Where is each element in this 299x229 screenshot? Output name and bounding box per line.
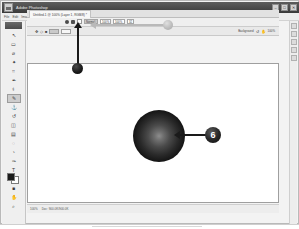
step-number-badge: 6 <box>205 127 221 143</box>
callout-arrow-gray-left <box>96 24 168 26</box>
callout-arrow-up-bead <box>72 63 83 74</box>
tool-gradient[interactable]: ▤ <box>7 130 21 139</box>
panel-adjustments-button[interactable] <box>291 31 297 37</box>
hand-tool-icon[interactable]: ✋ <box>261 29 266 34</box>
flow-value: 100% <box>115 20 122 24</box>
document-tab[interactable]: Untitled-1 @ 100% (Layer 1, RGB/8) * <box>29 10 91 18</box>
maximize-glyph: □ <box>282 5 287 10</box>
shape-icon[interactable]: ◇ <box>40 29 43 34</box>
close-button[interactable]: ✕ <box>290 4 297 11</box>
page-bottom-edge <box>0 224 299 229</box>
tool-blur[interactable]: ◌ <box>7 139 21 148</box>
move-tool-icon[interactable]: ✥ <box>35 29 38 34</box>
menu-item-edit[interactable]: Edit <box>12 15 18 19</box>
document-tab-label: Untitled-1 @ 100% (Layer 1, RGB/8) * <box>33 13 87 17</box>
document-tab-strip: Untitled-1 @ 100% (Layer 1, RGB/8) * <box>27 10 279 18</box>
panel-swatches-button[interactable] <box>291 55 297 61</box>
secondary-options-row: ✥ ◇ ■ Background ↺ ✋ 100% <box>27 27 279 36</box>
tool-healing-brush[interactable]: ⚕ <box>7 85 21 94</box>
tool-eraser[interactable]: ◫ <box>7 121 21 130</box>
tool-pen[interactable]: ✑ <box>7 157 21 166</box>
active-layer-label: Background <box>238 29 253 33</box>
rotate-view-icon[interactable]: ↺ <box>256 29 259 34</box>
tool-marquee[interactable]: ▭ <box>7 40 21 49</box>
color-swatches[interactable] <box>7 173 20 183</box>
tool-dodge[interactable]: ◔ <box>7 148 21 157</box>
tool-brush[interactable]: ✎ <box>7 94 21 103</box>
tool-history-brush[interactable]: ↺ <box>7 112 21 121</box>
status-zoom: 100% <box>30 207 38 211</box>
secondary-options-right: Background ↺ ✋ 100% <box>238 29 275 34</box>
step-number-label: 6 <box>210 127 215 143</box>
panel-layers-button[interactable] <box>291 39 297 45</box>
status-bar: 100% Doc: 900.0K/900.0K <box>27 204 279 213</box>
tool-clone-stamp[interactable]: ⚓ <box>7 103 21 112</box>
callout-arrow-gray-bead <box>163 20 173 30</box>
callout-arrow-up <box>77 28 79 66</box>
tool-eyedropper[interactable]: ✒ <box>7 76 21 85</box>
tool-hand[interactable]: ✋ <box>7 193 21 202</box>
font-size-input[interactable] <box>61 29 71 34</box>
tool-magic-wand[interactable]: ✦ <box>7 58 21 67</box>
tool-move[interactable]: ↖ <box>7 31 21 40</box>
page-edge-tick <box>92 226 202 227</box>
brush-preset-icon[interactable] <box>65 20 69 24</box>
close-glyph: ✕ <box>291 5 296 10</box>
maximize-button[interactable]: □ <box>281 4 288 11</box>
foreground-color-swatch[interactable] <box>7 173 15 181</box>
panel-color-button[interactable] <box>291 23 297 29</box>
secondary-options-left: ✥ ◇ ■ <box>35 29 71 34</box>
panel-history-button[interactable] <box>291 47 297 53</box>
panel-dock <box>289 21 297 224</box>
style-select[interactable] <box>49 29 59 34</box>
tolerance-value: 32 <box>129 20 132 24</box>
callout-arrow-left <box>180 134 206 136</box>
tool-zoom[interactable]: ⌕ <box>7 202 21 211</box>
opacity-value: 100% <box>102 20 109 24</box>
tools-list: ↖ ▭ ⌀ ✦ ⌗ ✒ ⚕ ✎ ⚓ ↺ ◫ ▤ ◌ ◔ ✑ T ▷ ■ ✋ ⌕ <box>6 31 21 211</box>
tool-shape[interactable]: ■ <box>7 184 21 193</box>
status-doc-size: Doc: 900.0K/900.0K <box>42 207 69 211</box>
fill-icon[interactable]: ■ <box>45 29 47 34</box>
photoshop-app-icon <box>4 3 13 12</box>
zoom-level-value: 100% <box>268 29 275 33</box>
menu-item-file[interactable]: File <box>4 15 9 19</box>
tool-crop[interactable]: ⌗ <box>7 67 21 76</box>
photoshop-window: Adobe Photoshop – □ ✕ File Edit Image La… <box>0 0 299 229</box>
tools-panel-header[interactable] <box>5 22 22 29</box>
tools-panel: ↖ ▭ ⌀ ✦ ⌗ ✒ ⚕ ✎ ⚓ ↺ ◫ ▤ ◌ ◔ ✑ T ▷ ■ ✋ ⌕ <box>2 21 26 224</box>
tool-lasso[interactable]: ⌀ <box>7 49 21 58</box>
